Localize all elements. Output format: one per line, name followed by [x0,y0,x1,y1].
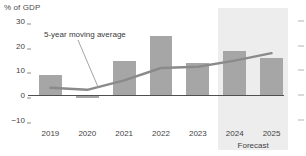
y-tick-dash [27,123,31,124]
right-tick-30 [298,20,304,21]
right-tick-0 [298,95,304,96]
y-tick-dash [27,48,31,49]
x-tick-2022: 2022 [152,129,170,138]
annotation-leader-line [78,40,98,88]
x-tick-2023: 2023 [189,129,207,138]
x-tick-2024: 2024 [226,129,244,138]
y-tick-dash [27,23,31,24]
right-tick-20 [298,45,304,46]
y-tick-dash [27,98,31,99]
y-tick-30: 30 [16,16,32,25]
moving-average-annotation: 5-year moving average [44,30,126,39]
right-tick--10 [298,120,304,121]
x-tick-2025: 2025 [263,129,281,138]
plot-area: 3020100−10 2019202020212022202320242025 … [32,16,290,120]
chart-root: % of GDP 3020100−10 20192020202120222023… [0,0,306,156]
x-tick-2021: 2021 [115,129,133,138]
forecast-label: Forecast [238,141,269,150]
right-tick-10 [298,70,304,71]
y-tick-dash [27,73,31,74]
y-tick-20: 20 [16,41,32,50]
x-tick-2019: 2019 [42,129,60,138]
y-tick--10: −10 [11,116,32,125]
moving-average-line [32,0,290,120]
y-tick-10: 10 [16,66,32,75]
y-tick-0: 0 [21,91,32,100]
x-tick-2020: 2020 [78,129,96,138]
